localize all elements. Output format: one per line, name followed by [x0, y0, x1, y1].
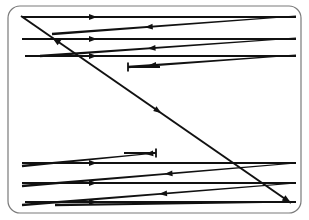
top-group-right-arrow-top-h3-triangle [89, 53, 97, 59]
top-group-right-arrow-top-h3 [89, 53, 97, 59]
bottom-group-right-arrow-bot-h1-triangle [89, 160, 97, 166]
bottom-group-left-arrow-bot-o1 [145, 150, 154, 157]
arrow-layer [50, 14, 293, 206]
top-group-right-arrow-top-h1 [89, 14, 97, 20]
top-group-right-arrow-top-h1-triangle [89, 14, 97, 20]
figure-canvas: Geometric line illusion figure Two group… [0, 0, 309, 220]
bottom-group-left-arrow-bot-o2 [164, 171, 172, 177]
top-group-left-arrow-top-o1-triangle [145, 24, 153, 30]
top-group-left-arrow-top-o1 [145, 24, 153, 30]
line-figure-svg: Geometric line illusion figure Two group… [0, 0, 309, 220]
top-group-right-arrow-top-h2-triangle [89, 36, 97, 42]
top-group-oblique-top-o2 [40, 37, 296, 57]
bottom-group-right-arrow-bot-h1 [89, 160, 97, 166]
bottom-group-left-arrow-bot-o1-triangle [145, 150, 154, 157]
top-group-left-arrow-top-o2-triangle [147, 45, 155, 51]
top-group-left-arrow-top-o2 [147, 45, 155, 51]
top-group-right-arrow-top-h2 [89, 36, 97, 42]
bottom-group-left-arrow-bot-o2-triangle [164, 171, 172, 177]
bottom-group-left-arrow-bot-o3-triangle [159, 190, 167, 196]
bottom-group-left-arrow-bot-o3 [159, 190, 167, 196]
bottom-group-oblique-bot-o1 [22, 152, 156, 167]
top-group-oblique-top-o1 [52, 15, 296, 35]
